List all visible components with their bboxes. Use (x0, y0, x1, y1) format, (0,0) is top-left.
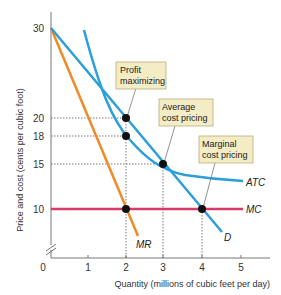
svg-text:maximizing: maximizing (120, 76, 165, 86)
point-marginal-cost (198, 205, 206, 213)
annotation-average-cost-pricing: Average cost pricing (159, 99, 213, 126)
svg-text:Marginal: Marginal (202, 139, 237, 149)
x-tick-3: 3 (160, 262, 166, 273)
point-average-cost (159, 160, 167, 168)
x-tick-1: 1 (85, 262, 91, 273)
x-tick-2: 2 (123, 262, 129, 273)
mr-label: MR (136, 239, 152, 250)
svg-text:cost pricing: cost pricing (162, 113, 208, 123)
x-tick-4: 4 (199, 262, 205, 273)
y-tick-20: 20 (33, 113, 45, 124)
demand-label: D (224, 232, 231, 243)
x-axis-label: Quantity (millions of cubic feet per day… (114, 279, 270, 289)
point-profit-max-atc (122, 132, 130, 140)
y-tick-18: 18 (33, 131, 45, 142)
atc-label: ATC (245, 177, 266, 188)
chart: Price and cost (cents per cubic foot) 0 … (0, 0, 281, 295)
svg-text:cost pricing: cost pricing (202, 150, 248, 160)
x-tick-5: 5 (238, 262, 244, 273)
point-profit-max-price (122, 114, 130, 122)
annotation-marginal-cost-pricing: Marginal cost pricing (199, 136, 253, 163)
mc-label: MC (246, 204, 262, 215)
point-mr-mc (122, 205, 130, 213)
y-tick-10: 10 (33, 204, 45, 215)
svg-text:Average: Average (162, 102, 195, 112)
y-tick-15: 15 (33, 159, 45, 170)
y-axis-label: Price and cost (cents per cubic foot) (15, 88, 25, 232)
y-tick-30: 30 (33, 23, 45, 34)
demand-curve (51, 28, 222, 232)
svg-text:Profit: Profit (120, 65, 142, 75)
x-tick-0: 0 (40, 262, 46, 273)
annotation-profit-maximizing: Profit maximizing (116, 62, 166, 89)
